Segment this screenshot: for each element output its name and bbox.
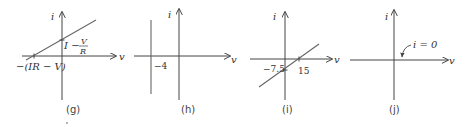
caption: (j): [389, 104, 400, 115]
fraction-numerator: V: [81, 37, 88, 46]
iv-characteristics-figure: i I − V R −(IR − V) (g) i −4 (h) i v −7.…: [0, 0, 470, 127]
i-axis-label: i: [273, 11, 276, 22]
caption: (g): [66, 104, 80, 115]
v-intercept-label: 15: [298, 66, 310, 76]
caption: (h): [181, 104, 195, 115]
annotation: i = 0: [413, 39, 438, 50]
v-intercept-label: −4: [154, 61, 168, 71]
stray-mark: [66, 122, 68, 124]
i-axis-label: i: [51, 11, 54, 22]
panel-j: i v i = 0 (j): [350, 10, 455, 115]
v-axis-label: v: [449, 55, 455, 66]
panel-i: i v −7.5 15 (i): [250, 11, 340, 115]
panel-g: i I − V R −(IR − V) (g): [16, 11, 116, 115]
i-intercept-label: I −: [63, 40, 80, 51]
v-axis-label: v: [231, 54, 237, 65]
i-intercept-label: −7.5: [263, 64, 285, 74]
i-axis-label: i: [168, 9, 171, 20]
panel-h: i −4 (h): [134, 9, 230, 115]
v-axis-label: v: [334, 54, 340, 65]
pointer-arrow-icon: [402, 45, 411, 57]
fraction-denominator: R: [79, 47, 86, 56]
i-axis-label: i: [385, 11, 388, 22]
v-axis-label: v: [119, 51, 125, 62]
panel-g-v-label: v: [119, 51, 125, 62]
v-intercept-label: −(IR − V): [16, 61, 66, 72]
caption: (i): [282, 104, 293, 115]
panel-h-v-label: v: [231, 54, 237, 65]
